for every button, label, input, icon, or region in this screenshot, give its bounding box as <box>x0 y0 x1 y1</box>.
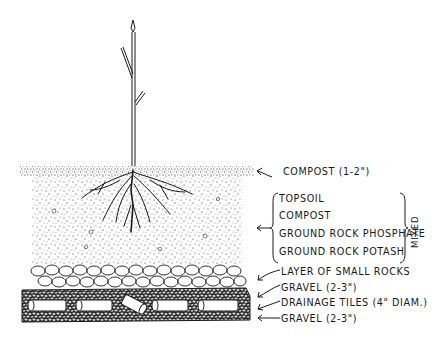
label-ground-rock-potash: GROUND ROCK POTASH <box>279 246 405 257</box>
label-compost-top: COMPOST (1-2") <box>283 166 370 177</box>
label-compost-mix: COMPOST <box>279 210 331 221</box>
small-rocks-layer <box>31 265 246 287</box>
label-topsoil: TOPSOIL <box>279 193 324 204</box>
label-gravel-upper: GRAVEL (2-3") <box>281 282 357 293</box>
label-mixed: MIXED <box>410 215 420 248</box>
seedling <box>121 20 145 168</box>
label-ground-rock-phosphate: GROUND ROCK PHOSPHATE <box>279 228 426 239</box>
label-drainage-tiles: DRAINAGE TILES (4" DIAM.) <box>281 297 428 308</box>
compost-top-layer <box>20 166 254 176</box>
label-small-rocks: LAYER OF SMALL ROCKS <box>281 266 410 277</box>
label-gravel-lower: GRAVEL (2-3") <box>281 313 357 324</box>
